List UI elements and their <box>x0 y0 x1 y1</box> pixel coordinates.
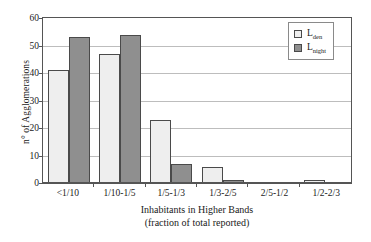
bar-lnight <box>120 35 141 184</box>
x-tick-label: 1/2-2/3 <box>300 188 352 198</box>
x-axis-title: Inhabitants in Higher Bands (fraction of… <box>42 203 352 229</box>
chart-legend: Lden Lnight <box>288 22 334 60</box>
bar-group <box>146 18 197 183</box>
bar-group <box>43 18 94 183</box>
y-tick-label: 20 <box>30 123 40 133</box>
legend-swatch-lden-icon <box>294 30 302 38</box>
bar-lnight <box>69 37 90 183</box>
x-tick-mark <box>93 183 94 187</box>
bar-lden <box>202 167 223 184</box>
bar-lnight <box>171 164 192 183</box>
legend-label-lden: Lden <box>307 28 322 40</box>
x-tick-label: 2/5-1/2 <box>249 188 301 198</box>
y-tick-label: 60 <box>30 13 40 23</box>
x-tick-label: 1/3-2/5 <box>197 188 249 198</box>
y-tick-label: 40 <box>30 68 40 78</box>
x-axis-line <box>43 182 351 183</box>
bar-lden <box>99 54 120 183</box>
x-tick-label: 1/5-1/3 <box>145 188 197 198</box>
legend-swatch-lnight-icon <box>294 44 302 52</box>
bar-group <box>94 18 145 183</box>
bar-chart-figure: n° of Agglomerations 0102030405060 <1/10… <box>0 0 371 242</box>
y-tick-label: 10 <box>30 151 40 161</box>
y-tick-mark <box>39 183 43 184</box>
y-tick-label: 50 <box>30 41 40 51</box>
y-tick-label: 30 <box>30 96 40 106</box>
x-tick-mark <box>299 183 300 187</box>
y-tick-label: 0 <box>34 178 39 188</box>
x-axis-title-line2: (fraction of total reported) <box>42 216 352 229</box>
x-tick-mark <box>196 183 197 187</box>
x-tick-mark <box>247 183 248 187</box>
bar-group <box>197 18 248 183</box>
x-axis-tick-labels: <1/101/10-1/51/5-1/31/3-2/52/5-1/21/2-2/… <box>42 188 352 198</box>
x-axis-title-line1: Inhabitants in Higher Bands <box>42 203 352 216</box>
legend-item-lnight: Lnight <box>294 41 326 55</box>
x-tick-label: 1/10-1/5 <box>94 188 146 198</box>
legend-item-lden: Lden <box>294 27 326 41</box>
x-tick-label: <1/10 <box>42 188 94 198</box>
x-tick-mark <box>145 183 146 187</box>
bar-lden <box>48 70 69 183</box>
bar-lden <box>150 120 171 183</box>
legend-label-lnight: Lnight <box>307 42 326 54</box>
